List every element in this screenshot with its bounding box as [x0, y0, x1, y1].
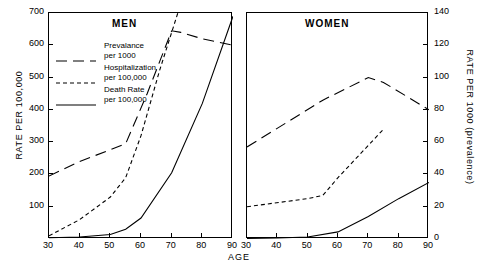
legend-swatch-solid-icon [56, 92, 96, 94]
y-tick-left-200: 200 [18, 167, 44, 177]
tick-mark [423, 173, 428, 174]
y-tick-left-700: 700 [18, 6, 44, 16]
panel-title-men: MEN [112, 18, 137, 29]
legend-label: Death Rateper 100,000 [104, 85, 147, 104]
x-tick-women-40: 40 [266, 240, 286, 250]
tick-mark [109, 233, 110, 238]
y-tick-right-40: 40 [434, 167, 460, 177]
series-line-short-dash [247, 129, 384, 206]
x-tick-women-70: 70 [357, 240, 377, 250]
chart-panel-women [246, 12, 428, 238]
x-tick-men-30: 30 [38, 240, 58, 250]
tick-mark [276, 233, 277, 238]
tick-mark [423, 206, 428, 207]
y-tick-right-100: 100 [434, 71, 460, 81]
x-tick-women-80: 80 [388, 240, 408, 250]
tick-mark [398, 233, 399, 238]
x-axis-title: AGE [0, 252, 478, 262]
legend-label: Prevalanceper 1000 [104, 41, 144, 60]
tick-mark [48, 173, 53, 174]
tick-mark [48, 206, 53, 207]
x-tick-women-50: 50 [297, 240, 317, 250]
tick-mark [48, 141, 53, 142]
x-tick-men-80: 80 [191, 240, 211, 250]
x-tick-women-90: 90 [418, 240, 438, 250]
tick-mark [48, 77, 53, 78]
y-tick-left-400: 400 [18, 103, 44, 113]
legend-swatch-long-dash-icon [56, 48, 96, 50]
tick-mark [201, 233, 202, 238]
tick-mark [140, 233, 141, 238]
legend-label-line2: per 1000 [104, 51, 144, 61]
y-tick-right-20: 20 [434, 200, 460, 210]
tick-mark [423, 77, 428, 78]
series-line-long-dash [247, 78, 429, 147]
legend-label-line1: Death Rate [104, 85, 147, 95]
tick-mark [367, 233, 368, 238]
legend-label-line1: Hospitalization [104, 63, 156, 73]
panel-title-women: WOMEN [305, 18, 349, 29]
legend-item: Death Rateper 100,000 [56, 88, 176, 110]
women-plot-lines [247, 13, 429, 239]
y-tick-right-140: 140 [434, 6, 460, 16]
y-tick-right-80: 80 [434, 103, 460, 113]
y-tick-left-100: 100 [18, 200, 44, 210]
tick-mark [337, 233, 338, 238]
x-tick-men-60: 60 [130, 240, 150, 250]
y-tick-left-300: 300 [18, 135, 44, 145]
tick-mark [48, 44, 53, 45]
chart-legend: Prevalanceper 1000Hospitalizationper 100… [56, 44, 176, 110]
tick-mark [48, 12, 53, 13]
y-axis-right-title: RATE PER 1000 (prevalence) [465, 22, 475, 212]
legend-swatch-short-dash-icon [56, 70, 96, 72]
tick-mark [423, 141, 428, 142]
x-tick-women-60: 60 [327, 240, 347, 250]
x-tick-men-50: 50 [99, 240, 119, 250]
x-tick-women-30: 30 [236, 240, 256, 250]
legend-label-line2: per 100,000 [104, 73, 156, 83]
x-tick-men-70: 70 [161, 240, 181, 250]
y-tick-right-120: 120 [434, 38, 460, 48]
x-tick-men-40: 40 [69, 240, 89, 250]
tick-mark [79, 233, 80, 238]
y-tick-left-600: 600 [18, 38, 44, 48]
tick-mark [307, 233, 308, 238]
tick-mark [48, 109, 53, 110]
chart-root: RATE PER 100,000 RATE PER 1000 (prevalen… [0, 0, 478, 271]
y-tick-right-60: 60 [434, 135, 460, 145]
series-line-solid [247, 183, 429, 239]
legend-label-line2: per 100,000 [104, 95, 147, 105]
tick-mark [171, 233, 172, 238]
legend-label-line1: Prevalance [104, 41, 144, 51]
tick-mark [423, 44, 428, 45]
y-tick-left-500: 500 [18, 71, 44, 81]
legend-label: Hospitalizationper 100,000 [104, 63, 156, 82]
tick-mark [423, 109, 428, 110]
